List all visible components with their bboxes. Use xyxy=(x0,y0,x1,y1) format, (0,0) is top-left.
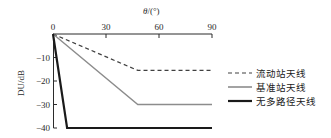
legend-item-no-multipath-antenna: 无多路径天线 xyxy=(228,96,316,107)
y-tick-marks xyxy=(54,58,58,129)
chart-figure: θ/(°) 0 30 60 90 −10 −2 xyxy=(0,0,331,138)
y-tick-label-minus40: −40 xyxy=(36,123,51,133)
chart-series-group xyxy=(53,34,212,128)
x-tick-label-90: 90 xyxy=(208,22,218,32)
x-tick-label-60: 60 xyxy=(155,22,165,32)
y-axis-title: DU/dB xyxy=(16,70,26,96)
series-line-no-multipath-antenna xyxy=(53,34,212,128)
x-axis-title: θ/(°) xyxy=(143,6,160,16)
y-tick-labels: −10 −20 −30 −40 xyxy=(36,53,51,134)
legend-item-base-antenna: 基准站天线 xyxy=(228,82,306,93)
legend-label-rover-antenna: 流动站天线 xyxy=(256,68,306,79)
legend-item-rover-antenna: 流动站天线 xyxy=(228,68,306,79)
x-tick-labels: 0 30 60 90 xyxy=(51,22,217,32)
x-tick-label-0: 0 xyxy=(51,22,56,32)
chart-svg: θ/(°) 0 30 60 90 −10 −2 xyxy=(0,0,331,138)
legend-label-no-multipath-antenna: 无多路径天线 xyxy=(256,96,316,107)
x-tick-marks xyxy=(54,34,213,38)
chart-legend: 流动站天线 基准站天线 无多路径天线 xyxy=(228,68,316,107)
y-tick-label-minus30: −30 xyxy=(36,100,51,110)
legend-label-base-antenna: 基准站天线 xyxy=(256,82,306,93)
series-line-base-antenna xyxy=(53,34,212,105)
y-tick-label-minus20: −20 xyxy=(36,76,51,86)
series-line-rover-antenna xyxy=(53,34,212,70)
x-tick-label-30: 30 xyxy=(102,22,112,32)
y-tick-label-minus10: −10 xyxy=(36,53,51,63)
